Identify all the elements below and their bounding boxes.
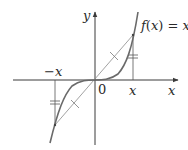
odd-function-diagram: y x 0 x −x f(x) = x3: [0, 0, 188, 150]
x-axis-label: x: [168, 83, 176, 98]
point-x: [132, 34, 134, 36]
y-axis-label: y: [82, 8, 91, 23]
neg-x-label: −x: [44, 64, 63, 79]
chord-tick-left: [71, 100, 79, 108]
cubic-curve: [50, 12, 138, 143]
point-neg-x: [54, 124, 56, 126]
pos-x-label: x: [129, 83, 137, 98]
origin-label: 0: [98, 82, 106, 97]
function-label: f(x) = x3: [140, 18, 188, 33]
